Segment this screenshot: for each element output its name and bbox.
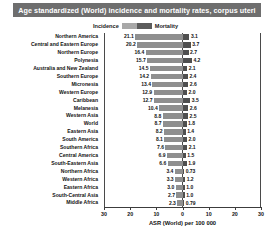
incidence-value: 14.5 — [139, 66, 149, 71]
mortality-bar — [183, 200, 185, 205]
incidence-value: 2.7 — [168, 193, 175, 198]
chart-row: 8.71.8 — [105, 120, 260, 128]
mortality-side: 0.79 — [183, 199, 261, 207]
mortality-bar — [183, 82, 189, 87]
incidence-side: 14.2 — [105, 73, 183, 81]
category-label: Middle Africa — [66, 199, 98, 207]
x-axis-tick-label: 10 — [153, 211, 159, 217]
incidence-side: 20.2 — [105, 41, 183, 49]
incidence-value: 20.2 — [126, 42, 136, 47]
incidence-value: 3.3 — [167, 177, 174, 182]
incidence-bar — [146, 50, 183, 55]
incidence-side: 2.7 — [105, 191, 183, 199]
incidence-value: 16.4 — [134, 50, 144, 55]
mortality-side: 2.6 — [183, 80, 261, 88]
category-label: Southern Europe — [57, 73, 98, 81]
incidence-value: 8.1 — [156, 137, 163, 142]
mortality-bar — [183, 153, 186, 158]
incidence-value: 12.7 — [143, 98, 153, 103]
mortality-bar — [183, 66, 188, 71]
x-axis-tick-label: 10 — [206, 211, 212, 217]
chart-row: 15.74.2 — [105, 57, 260, 65]
category-label: South America — [62, 136, 98, 144]
chart-row: 16.42.7 — [105, 49, 260, 57]
incidence-side: 10.4 — [105, 104, 183, 112]
mortality-bar — [183, 105, 189, 110]
mortality-side: 2.7 — [183, 49, 261, 57]
chart-row: 8.82.5 — [105, 112, 260, 120]
category-label: Northern America — [55, 33, 98, 41]
category-label: Polynesia — [74, 57, 98, 65]
x-axis-tick — [261, 207, 262, 210]
legend-item-incidence-label: Incidence — [93, 23, 119, 29]
incidence-bar — [165, 145, 182, 150]
incidence-bar — [176, 185, 183, 190]
incidence-value: 21.1 — [124, 34, 134, 39]
incidence-bar — [152, 82, 182, 87]
incidence-side: 3.4 — [105, 167, 183, 175]
mortality-value: 1.5 — [187, 153, 194, 158]
mortality-value: 1.9 — [188, 161, 195, 166]
legend-swatch-mortality — [137, 23, 152, 29]
incidence-value: 2.3 — [169, 201, 176, 206]
incidence-value: 7.6 — [157, 145, 164, 150]
incidence-bar — [135, 34, 182, 39]
mortality-bar — [183, 98, 191, 103]
mortality-value: 2.1 — [189, 66, 196, 71]
category-label: Central America — [59, 152, 98, 160]
mortality-bar — [183, 192, 185, 197]
incidence-side: 3.3 — [105, 175, 183, 183]
incidence-bar — [159, 105, 182, 110]
mortality-value: 1.8 — [188, 121, 195, 126]
x-axis-tick-label: 0 — [181, 211, 184, 217]
chart-row: 20.23.7 — [105, 41, 260, 49]
incidence-side: 14.5 — [105, 65, 183, 73]
mortality-side: 3.1 — [183, 33, 261, 41]
incidence-side: 12.9 — [105, 88, 183, 96]
chart-container: Age standardized (World) incidence and m… — [0, 0, 271, 235]
incidence-bar — [163, 121, 183, 126]
mortality-bar — [183, 121, 187, 126]
x-axis-tick — [209, 207, 210, 210]
mortality-value: 2.5 — [190, 114, 197, 119]
page-title: Age standardized (World) incidence and m… — [18, 6, 255, 15]
mortality-value: 2.7 — [190, 50, 197, 55]
mortality-value: 0.73 — [186, 169, 196, 174]
x-axis-tick — [235, 207, 236, 210]
chart-row: 6.61.9 — [105, 160, 260, 168]
x-axis-tick — [104, 207, 105, 210]
mortality-side: 1.2 — [183, 175, 261, 183]
category-label: Western Asia — [66, 112, 98, 120]
category-label: Western Europe — [59, 88, 98, 96]
mortality-value: 2.0 — [188, 137, 195, 142]
incidence-bar — [154, 98, 182, 103]
incidence-bar — [168, 161, 183, 166]
mortality-bar — [183, 185, 185, 190]
category-label: Melanesia — [74, 104, 98, 112]
category-label: Northern Europe — [58, 49, 98, 57]
incidence-side: 16.4 — [105, 49, 183, 57]
mortality-side: 2.5 — [183, 112, 261, 120]
mortality-value: 0.79 — [186, 201, 196, 206]
mortality-side: 1.9 — [183, 160, 261, 168]
mortality-value: 2.1 — [189, 145, 196, 150]
incidence-value: 10.4 — [148, 106, 158, 111]
mortality-bar — [183, 129, 186, 134]
incidence-side: 6.6 — [105, 160, 183, 168]
incidence-side: 15.7 — [105, 57, 183, 65]
incidence-side: 3.0 — [105, 183, 183, 191]
mortality-bar — [183, 50, 189, 55]
incidence-bar — [151, 74, 183, 79]
incidence-side: 2.3 — [105, 199, 183, 207]
chart-row: 12.73.5 — [105, 96, 260, 104]
incidence-value: 8.8 — [154, 114, 161, 119]
mortality-bar — [183, 113, 189, 118]
category-label: Central and Eastern Europe — [31, 41, 98, 49]
chart-row: 3.01.0 — [105, 183, 260, 191]
category-label: South-Eastern Asia — [51, 160, 98, 168]
category-label: Northern Africa — [61, 167, 98, 175]
plot-area: 21.13.120.23.716.42.715.74.214.52.114.22… — [104, 33, 261, 207]
incidence-value: 14.2 — [139, 74, 149, 79]
x-axis-tick — [130, 207, 131, 210]
mortality-value: 4.2 — [193, 58, 200, 63]
